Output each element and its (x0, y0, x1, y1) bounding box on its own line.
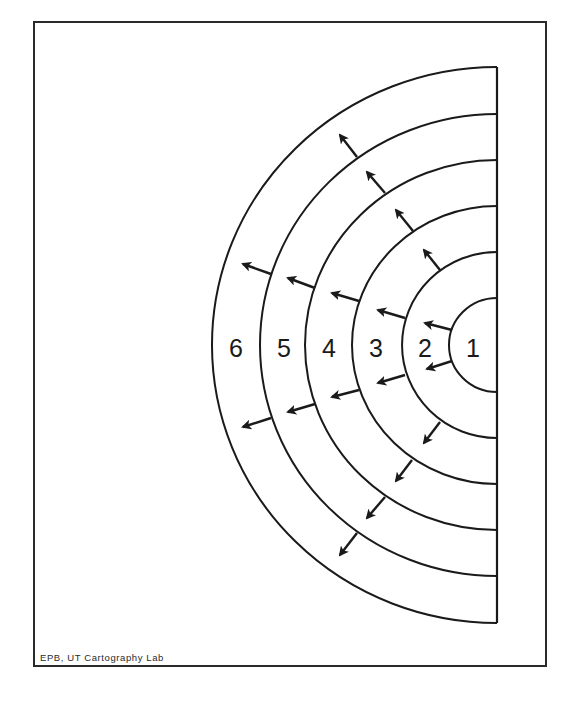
arrow-icon (396, 460, 412, 481)
arrow-icon (378, 310, 405, 318)
arrow-icon (424, 422, 440, 443)
arrow-icon (367, 172, 385, 193)
arrow-icon (243, 264, 271, 274)
ring-label-1: 1 (466, 334, 480, 362)
arrow-icon (243, 418, 271, 427)
arrow-icon (378, 375, 405, 383)
arrow-icon (288, 404, 315, 412)
ring-label-6: 6 (229, 334, 243, 362)
arrow-icon (332, 390, 359, 397)
credit-text: EPB, UT Cartography Lab (40, 652, 164, 663)
arrow-icon (288, 278, 315, 288)
arrow-icon (340, 135, 357, 157)
ring-label-4: 4 (322, 334, 336, 362)
arrow-icon (396, 210, 413, 231)
arrow-icon (367, 497, 385, 518)
arrow-icon (332, 293, 359, 301)
ring-label-2: 2 (418, 334, 432, 362)
arrow-icon (424, 250, 440, 270)
ring-label-3: 3 (369, 334, 383, 362)
ring-arcs (212, 67, 497, 623)
arrow-icon (340, 533, 357, 555)
arrow-icon (425, 323, 452, 330)
ring-arc-6 (212, 67, 497, 623)
ring-label-5: 5 (277, 334, 291, 362)
concentric-zones-diagram: 123456 (0, 0, 574, 713)
ring-labels: 123456 (229, 334, 480, 362)
arrow-icon (427, 361, 452, 369)
